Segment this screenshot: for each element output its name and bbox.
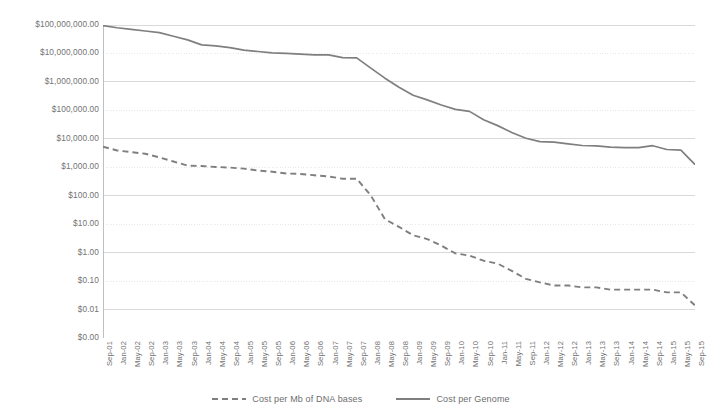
x-axis-tick-label: Sep-15 <box>698 341 706 366</box>
x-axis-tick-label: Sep-02 <box>148 341 156 366</box>
x-axis-tick-label: May-02 <box>134 341 142 367</box>
x-axis-tick-label: May-07 <box>346 341 354 367</box>
chart-legend: Cost per Mb of DNA basesCost per Genome <box>0 389 722 409</box>
x-axis: Sep-01Jan-02May-02Sep-02Jan-03May-03Sep-… <box>103 341 695 385</box>
y-axis-tick-label: $100,000.00 <box>3 105 99 114</box>
y-axis-tick-label: $1,000,000.00 <box>3 77 99 86</box>
series-line <box>103 26 695 165</box>
y-axis-tick-label: $10,000.00 <box>3 134 99 143</box>
y-axis-tick-label: $10.00 <box>3 219 99 228</box>
x-axis-tick-label: Sep-10 <box>487 341 495 366</box>
x-axis-tick-label: Jan-04 <box>205 341 213 365</box>
x-axis-tick-label: Jan-13 <box>585 341 593 365</box>
legend-entry[interactable]: Cost per Mb of DNA bases <box>212 394 362 404</box>
y-axis-tick-label: $10,000,000.00 <box>3 48 99 57</box>
x-axis-tick-label: May-04 <box>219 341 227 367</box>
x-axis-tick-label: Jan-05 <box>247 341 255 365</box>
x-axis-tick-label: Sep-12 <box>571 341 579 366</box>
y-axis-tick-label: $1.00 <box>3 248 99 257</box>
x-axis-tick-label: May-03 <box>176 341 184 367</box>
x-axis-tick-label: May-15 <box>684 341 692 367</box>
legend-dashed-line-icon <box>212 395 246 403</box>
x-axis-tick-label: Sep-04 <box>233 341 241 366</box>
axis-lines <box>103 25 695 338</box>
plot-area <box>103 25 695 338</box>
x-axis-tick-label: May-11 <box>515 341 523 366</box>
x-axis-tick-label: May-12 <box>557 341 565 367</box>
x-axis-tick-label: May-05 <box>261 341 269 367</box>
y-axis-tick-label: $100,000,000.00 <box>3 20 99 29</box>
x-axis-tick-label: Jan-11 <box>501 341 509 364</box>
x-axis-tick-label: Jan-06 <box>289 341 297 365</box>
legend-entry[interactable]: Cost per Genome <box>396 394 509 404</box>
x-axis-tick-label: Sep-09 <box>444 341 452 366</box>
y-axis: $100,000,000.00$10,000,000.00$1,000,000.… <box>0 0 99 417</box>
y-axis-tick-label: $100.00 <box>3 191 99 200</box>
x-axis-tick-label: Sep-06 <box>317 341 325 366</box>
x-axis-tick-label: Jan-12 <box>543 341 551 365</box>
y-axis-tick-label: $0.01 <box>3 305 99 314</box>
legend-label: Cost per Genome <box>436 394 509 404</box>
x-axis-tick-label: Sep-13 <box>613 341 621 366</box>
x-axis-tick-label: Jan-09 <box>416 341 424 365</box>
x-axis-tick-label: Jan-08 <box>374 341 382 365</box>
x-axis-tick-label: Sep-01 <box>106 341 114 366</box>
x-axis-tick-label: Jan-10 <box>458 341 466 365</box>
x-axis-tick-label: Jan-03 <box>162 341 170 365</box>
legend-solid-line-icon <box>396 395 430 403</box>
x-axis-tick-label: Jan-15 <box>670 341 678 365</box>
x-axis-tick-label: Jan-02 <box>120 341 128 365</box>
x-axis-tick-label: Sep-14 <box>656 341 664 366</box>
x-axis-tick-label: Sep-03 <box>191 341 199 366</box>
x-axis-tick-label: May-08 <box>388 341 396 367</box>
x-axis-tick-label: Jan-14 <box>628 341 636 365</box>
sequencing-cost-chart: $100,000,000.00$10,000,000.00$1,000,000.… <box>0 0 722 417</box>
series-lines <box>103 26 695 306</box>
plot-svg <box>103 25 695 338</box>
x-axis-tick-label: Jan-07 <box>332 341 340 365</box>
x-axis-tick-label: Sep-08 <box>402 341 410 366</box>
legend-label: Cost per Mb of DNA bases <box>252 394 362 404</box>
y-axis-tick-label: $0.10 <box>3 276 99 285</box>
gridlines <box>103 25 695 338</box>
y-axis-tick-label: $1,000.00 <box>3 162 99 171</box>
x-axis-tick-label: May-14 <box>642 341 650 367</box>
x-axis-tick-label: May-13 <box>599 341 607 367</box>
x-axis-tick-label: Sep-07 <box>360 341 368 366</box>
x-axis-tick-label: May-10 <box>472 341 480 367</box>
x-axis-tick-label: May-09 <box>430 341 438 367</box>
x-axis-tick-label: Sep-05 <box>275 341 283 366</box>
x-axis-tick-label: May-06 <box>303 341 311 367</box>
y-axis-tick-label: $0.00 <box>3 333 99 342</box>
x-axis-tick-label: Sep-11 <box>529 341 537 366</box>
